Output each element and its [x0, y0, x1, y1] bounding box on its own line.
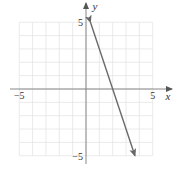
y-tick-label: 5 — [78, 17, 83, 28]
y-axis-label: y — [92, 0, 98, 12]
x-axis-label: x — [165, 90, 171, 102]
x-tick-label: 5 — [150, 90, 155, 101]
coordinate-plane: −555−5xy — [0, 0, 177, 170]
axes — [10, 3, 172, 164]
y-tick-label: −5 — [72, 151, 83, 162]
axis-labels: −555−5xy — [14, 0, 171, 162]
x-tick-label: −5 — [14, 90, 25, 101]
